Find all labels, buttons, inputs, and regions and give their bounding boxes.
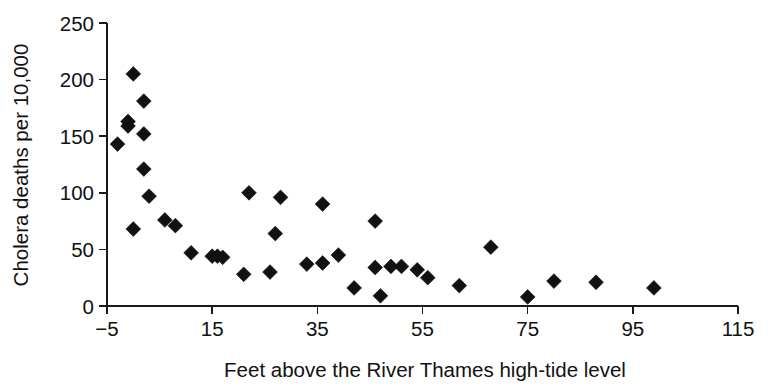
- data-point-marker: [142, 189, 157, 204]
- data-point-marker: [242, 185, 257, 200]
- data-point-marker: [394, 259, 409, 274]
- y-tick-label: 50: [71, 238, 94, 261]
- axes-group: [107, 23, 738, 306]
- data-point-marker: [368, 260, 383, 275]
- data-point-marker: [110, 137, 125, 152]
- y-tick-label: 200: [60, 68, 94, 91]
- x-tick-label: 55: [411, 317, 434, 340]
- data-point-marker: [126, 222, 141, 237]
- data-point-marker: [483, 240, 498, 255]
- data-point-marker: [299, 257, 314, 272]
- data-point-marker: [520, 290, 535, 305]
- y-tick-label: 100: [60, 181, 94, 204]
- x-tick-label: 95: [621, 317, 644, 340]
- data-point-marker: [126, 67, 141, 82]
- x-axis-title: Feet above the River Thames high-tide le…: [224, 358, 626, 381]
- data-point-marker: [263, 265, 278, 280]
- data-point-marker: [315, 256, 330, 271]
- y-tick-label: 150: [60, 125, 94, 148]
- data-point-marker: [547, 274, 562, 289]
- y-tick-label: 250: [60, 12, 94, 35]
- data-point-marker: [373, 288, 388, 303]
- data-point-marker: [136, 94, 151, 109]
- data-point-marker: [646, 280, 661, 295]
- x-tick-label: −5: [95, 317, 118, 340]
- data-point-marker: [268, 226, 283, 241]
- data-point-marker: [410, 262, 425, 277]
- x-tick-label: 75: [516, 317, 539, 340]
- data-point-marker: [136, 127, 151, 142]
- data-point-marker: [331, 248, 346, 263]
- x-tick-label: 15: [201, 317, 224, 340]
- data-point-marker: [420, 270, 435, 285]
- data-point-marker: [347, 280, 362, 295]
- y-tick-label: 0: [83, 295, 94, 318]
- x-tick-label: 35: [306, 317, 329, 340]
- data-point-marker: [589, 275, 604, 290]
- y-axis-title: Cholera deaths per 10,000: [9, 44, 32, 287]
- data-point-marker: [315, 197, 330, 212]
- data-point-marker: [368, 214, 383, 229]
- data-point-marker: [236, 267, 251, 282]
- data-point-marker: [452, 278, 467, 293]
- data-point-marker: [184, 245, 199, 260]
- data-markers-group: [110, 67, 661, 305]
- data-point-marker: [273, 190, 288, 205]
- data-point-marker: [136, 162, 151, 177]
- scatter-plot-svg: −51535557595115050100150200250 Feet abov…: [0, 0, 774, 390]
- x-tick-label: 115: [722, 317, 755, 340]
- cholera-scatter-figure: −51535557595115050100150200250 Feet abov…: [0, 0, 774, 390]
